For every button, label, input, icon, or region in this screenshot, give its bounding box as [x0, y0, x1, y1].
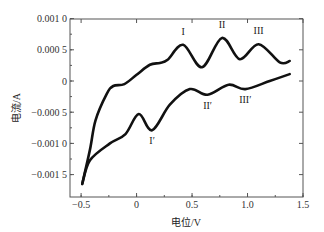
peak-label: III′	[239, 94, 251, 105]
x-tick-label: −0.5	[72, 199, 90, 210]
x-tick-label: 1.0	[241, 199, 254, 210]
plot-frame	[70, 19, 303, 197]
x-axis-title: 电位/V	[171, 216, 202, 228]
y-tick-label: −0.000 5	[31, 107, 67, 118]
anodic-curve	[82, 38, 289, 184]
x-tick-label: 1.5	[297, 199, 310, 210]
y-tick-label: 0.000 5	[37, 44, 67, 55]
x-tick-label: 0	[134, 199, 139, 210]
y-tick-label: 0.001 0	[37, 13, 67, 24]
peak-label: III	[254, 25, 264, 36]
y-tick-label: −0.001 5	[31, 169, 67, 180]
data-series	[82, 38, 289, 184]
peak-annotations: IIIIIII′II′III′	[149, 19, 263, 146]
cathodic-curve	[82, 74, 289, 184]
peak-label: II′	[203, 100, 212, 111]
y-axis-ticks: 0.001 00.000 50−0.000 5−0.001 0−0.001 5	[31, 13, 303, 180]
x-axis-ticks: −0.500.51.01.5	[72, 19, 309, 210]
y-axis-title: 电流/A	[10, 92, 22, 123]
peak-label: II	[219, 19, 226, 30]
x-tick-label: 0.5	[186, 199, 199, 210]
y-tick-label: −0.001 0	[31, 138, 67, 149]
peak-label: I	[181, 26, 184, 37]
cyclic-voltammogram-chart: −0.500.51.01.5 0.001 00.000 50−0.000 5−0…	[0, 0, 324, 232]
y-tick-label: 0	[62, 76, 67, 87]
peak-label: I′	[149, 135, 155, 146]
